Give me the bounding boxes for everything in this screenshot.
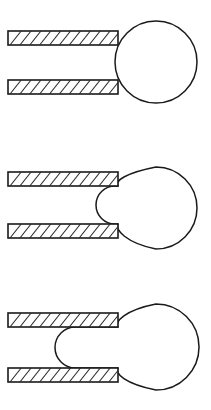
panel-3-lower-bar-outline [8, 368, 118, 382]
panel-stage-3 [8, 304, 199, 390]
panel-3-lower-bar [8, 368, 120, 382]
panel-1-body-circle [115, 21, 197, 103]
deformation-sequence-diagram [0, 0, 211, 410]
panel-1-lower-bar-outline [8, 80, 118, 94]
panel-1-lower-bar [8, 80, 120, 94]
panel-3-upper-bar-outline [8, 313, 118, 327]
panel-2-lower-bar [8, 224, 120, 238]
panel-3-upper-bar [8, 313, 120, 327]
panel-2-lower-bar-outline [8, 224, 118, 238]
panel-1-circle [115, 21, 197, 103]
panel-2-upper-bar-outline [8, 172, 118, 186]
panel-1-upper-bar-outline [8, 31, 118, 45]
panel-stage-1 [8, 21, 197, 103]
panel-1-upper-bar [8, 31, 120, 45]
panel-stage-2 [8, 167, 197, 249]
figure-root [0, 0, 211, 410]
panel-2-upper-bar [8, 172, 120, 186]
